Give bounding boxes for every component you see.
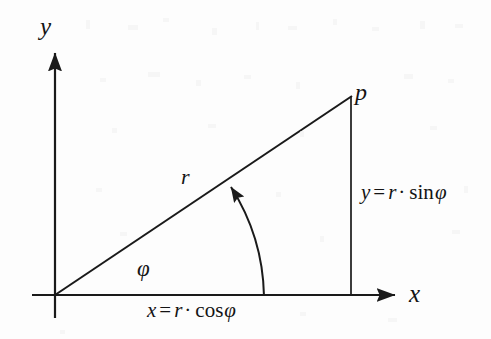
equation-y-lhs: y (361, 180, 370, 204)
radius-ray (55, 96, 352, 295)
point-p-label: p (355, 80, 367, 104)
y-axis-label: y (40, 14, 51, 39)
equation-x-angle: φ (224, 298, 236, 322)
angle-arc (231, 187, 264, 296)
angle-label-phi: φ (137, 257, 150, 280)
equation-x-dot: · (182, 298, 193, 322)
equation-y-angle: φ (435, 180, 447, 204)
radius-label: r (181, 166, 190, 188)
equation-y-dot: · (396, 180, 407, 204)
x-axis-label: x (409, 281, 420, 306)
equation-y-function: sin (407, 180, 435, 204)
equation-x-equals: = (156, 298, 174, 322)
equation-x-function: cos (193, 298, 224, 322)
equation-x-projection: x=r·cosφ (147, 300, 236, 321)
polar-coordinate-figure: y x p r φ y=r·sinφ x=r·cosφ (0, 0, 491, 339)
equation-y-projection: y=r·sinφ (361, 182, 447, 203)
equation-y-equals: = (370, 180, 388, 204)
equation-x-lhs: x (147, 298, 156, 322)
